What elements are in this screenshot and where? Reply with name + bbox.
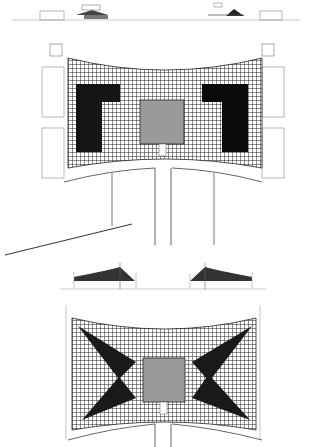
drawing-sheet <box>0 0 316 447</box>
center-square <box>140 100 184 144</box>
right-canopy-elevation-2 <box>190 263 252 289</box>
lower-elevation <box>60 263 266 289</box>
left-canopy-elevation <box>76 5 108 19</box>
right-canopy-elevation <box>208 3 244 16</box>
lower-plan <box>60 305 270 447</box>
left-canopy-elevation-2 <box>74 263 136 289</box>
upper-plan <box>5 44 284 255</box>
center-square-2 <box>143 358 185 402</box>
top-elevation <box>12 3 300 20</box>
